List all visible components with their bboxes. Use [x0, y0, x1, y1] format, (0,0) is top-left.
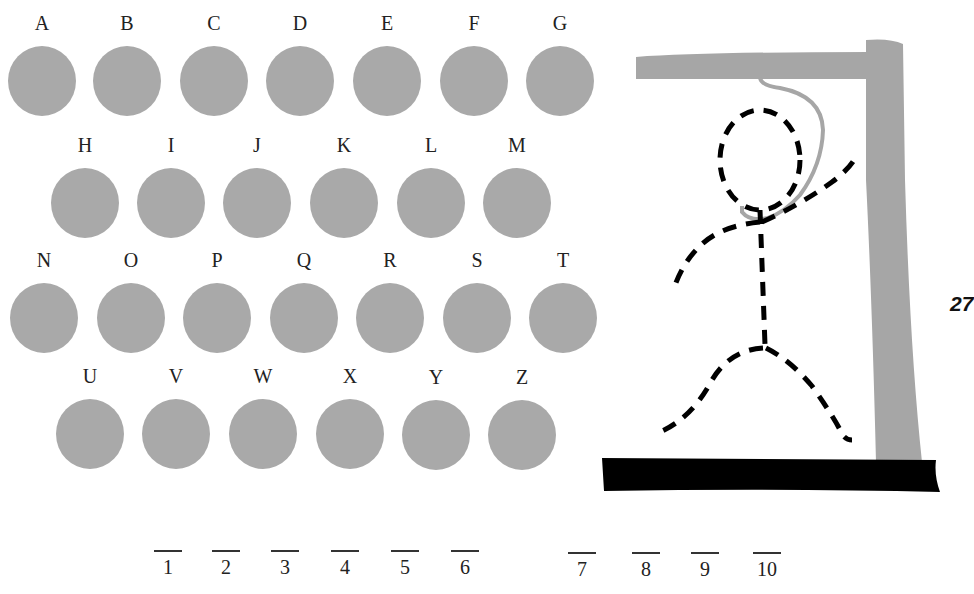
answer-slot-5: 5 [390, 550, 420, 578]
blank-line [451, 550, 479, 552]
blank-line [271, 550, 299, 552]
answer-slot-8: 8 [631, 552, 661, 580]
slot-number: 7 [567, 558, 597, 580]
blank-line [154, 550, 182, 552]
gallows-drawing [0, 0, 974, 594]
blank-line [753, 552, 781, 554]
figure-head [720, 110, 800, 210]
slot-number: 5 [390, 556, 420, 578]
blank-line [568, 552, 596, 554]
slot-number: 3 [270, 556, 300, 578]
slot-number: 2 [211, 556, 241, 578]
slot-number: 9 [690, 558, 720, 580]
answer-slot-7: 7 [567, 552, 597, 580]
figure-left-leg [660, 348, 763, 432]
blank-line [391, 550, 419, 552]
gallows-post [866, 40, 922, 463]
slot-number: 4 [330, 556, 360, 578]
slot-number: 10 [752, 558, 782, 580]
slot-number: 6 [450, 556, 480, 578]
figure-left-arm [674, 222, 760, 288]
blank-line [212, 550, 240, 552]
answer-slot-10: 10 [752, 552, 782, 580]
slot-number: 8 [631, 558, 661, 580]
gallows-beam [636, 52, 870, 79]
blank-line [632, 552, 660, 554]
figure-body [760, 210, 765, 345]
blank-line [331, 550, 359, 552]
answer-slot-3: 3 [270, 550, 300, 578]
answer-slot-6: 6 [450, 550, 480, 578]
page-number: 27 [950, 292, 973, 316]
answer-slot-4: 4 [330, 550, 360, 578]
answer-slot-2: 2 [211, 550, 241, 578]
slot-number: 1 [153, 556, 183, 578]
gallows-base [602, 458, 940, 492]
figure-right-leg [766, 348, 852, 440]
blank-line [691, 552, 719, 554]
answer-slot-1: 1 [153, 550, 183, 578]
answer-slot-9: 9 [690, 552, 720, 580]
